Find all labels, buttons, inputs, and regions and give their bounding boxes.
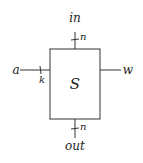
output-width-label: n bbox=[80, 121, 86, 132]
input-label: in bbox=[69, 11, 81, 25]
block-label: S bbox=[70, 75, 80, 93]
left-width-label: k bbox=[39, 74, 45, 85]
left-label: a bbox=[12, 63, 19, 77]
output-label: out bbox=[65, 139, 85, 153]
block-diagram: S in n out n a k w bbox=[0, 0, 143, 163]
input-bus-tick bbox=[71, 39, 79, 40]
input-width-label: n bbox=[80, 31, 86, 42]
output-bus-tick bbox=[71, 128, 79, 129]
right-label: w bbox=[123, 63, 134, 77]
left-bus-tick bbox=[40, 66, 41, 74]
